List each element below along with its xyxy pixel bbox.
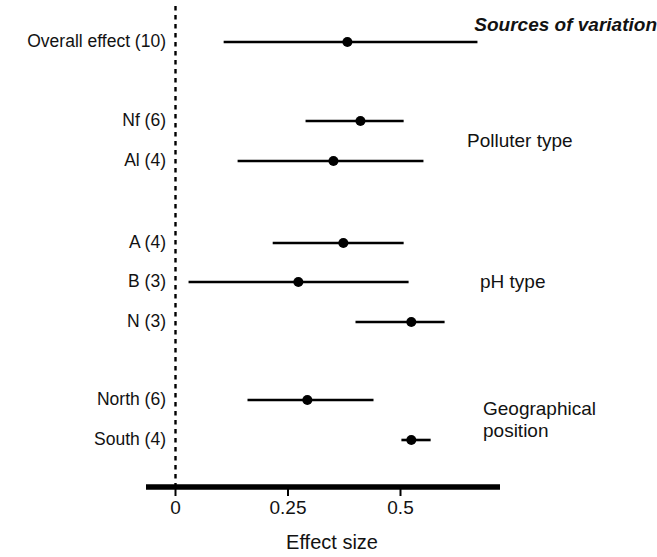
forest-plot-canvas	[0, 0, 657, 557]
row-label: Overall effect (10)	[27, 33, 166, 51]
x-tick-label: 0.5	[387, 498, 413, 517]
x-tick-label: 0.25	[270, 498, 307, 517]
group-label-ph-type: pH type	[480, 271, 545, 293]
row-label: A (4)	[129, 234, 166, 252]
effect-marker-layer	[293, 37, 416, 445]
row-label: North (6)	[97, 391, 166, 409]
x-axis-title: Effect size	[286, 532, 378, 552]
row-label: B (3)	[128, 273, 166, 291]
forest-plot-figure: Overall effect (10)Nf (6)Al (4)A (4)B (3…	[0, 0, 657, 557]
sources-of-variation-header: Sources of variation	[474, 14, 657, 36]
effect-size-marker	[293, 277, 303, 287]
confidence-interval-layer	[189, 42, 478, 440]
row-label: Nf (6)	[122, 112, 166, 130]
effect-size-marker	[355, 116, 365, 126]
row-label: N (3)	[127, 313, 166, 331]
effect-size-marker	[302, 395, 312, 405]
row-label: Al (4)	[124, 152, 166, 170]
effect-size-marker	[342, 37, 352, 47]
x-tick-label: 0	[170, 498, 181, 517]
group-label-geographical-position: Geographical position	[483, 398, 596, 443]
effect-size-marker	[406, 317, 416, 327]
group-label-polluter-type: Polluter type	[467, 130, 573, 152]
effect-size-marker	[338, 238, 348, 248]
effect-size-marker	[406, 435, 416, 445]
effect-size-marker	[328, 156, 338, 166]
row-label: South (4)	[94, 431, 166, 449]
